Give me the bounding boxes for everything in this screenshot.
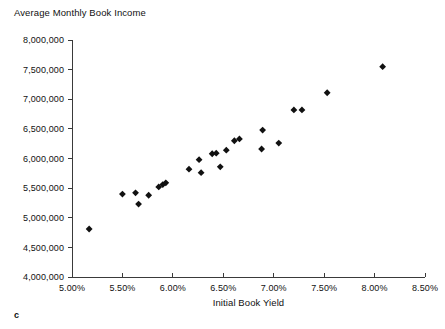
data-point-marker [259, 127, 266, 134]
x-tick-label: 8.00% [362, 283, 388, 293]
y-axis-ticks: 4,000,0004,500,0005,000,0005,500,0006,00… [23, 35, 72, 282]
y-tick-label: 4,000,000 [23, 272, 64, 282]
y-tick-label: 6,000,000 [23, 154, 64, 164]
y-tick-label: 4,500,000 [23, 243, 64, 253]
x-tick-label: 6.00% [160, 283, 186, 293]
x-tick-label: 5.00% [59, 283, 85, 293]
y-tick-label: 5,500,000 [23, 183, 64, 193]
y-tick-label: 5,000,000 [23, 213, 64, 223]
x-axis-title: Initial Book Yield [0, 297, 445, 308]
y-tick-label: 8,000,000 [23, 35, 64, 45]
data-point-marker [258, 146, 265, 153]
x-tick-label: 7.50% [311, 283, 337, 293]
data-point-marker [213, 150, 220, 157]
data-point-marker [119, 191, 126, 198]
data-point-marker [132, 189, 139, 196]
x-axis-ticks: 5.00%5.50%6.00%6.50%7.00%7.50%8.00%8.50% [59, 273, 438, 293]
x-tick-label: 6.50% [210, 283, 236, 293]
data-point-marker [86, 226, 93, 233]
data-point-marker [196, 156, 203, 163]
y-tick-label: 7,500,000 [23, 65, 64, 75]
data-point-series [86, 63, 386, 232]
x-tick-label: 7.00% [261, 283, 287, 293]
data-point-marker [379, 63, 386, 70]
y-tick-label: 6,500,000 [23, 124, 64, 134]
data-point-marker [324, 89, 331, 96]
data-point-marker [198, 169, 205, 176]
data-point-marker [223, 147, 230, 154]
y-tick-label: 7,000,000 [23, 94, 64, 104]
data-point-marker [186, 166, 193, 173]
x-tick-label: 8.50% [412, 283, 438, 293]
data-point-marker [135, 201, 142, 208]
x-tick-label: 5.50% [109, 283, 135, 293]
plot-area: 4,000,0004,500,0005,000,0005,500,0006,00… [0, 0, 445, 329]
data-point-marker [145, 192, 152, 199]
scatter-chart: Average Monthly Book Income 4,000,0004,5… [0, 0, 445, 329]
data-point-marker [217, 163, 224, 170]
data-point-marker [275, 140, 282, 147]
data-point-marker [290, 107, 297, 114]
corner-note: c [14, 310, 19, 320]
data-point-marker [299, 107, 306, 114]
